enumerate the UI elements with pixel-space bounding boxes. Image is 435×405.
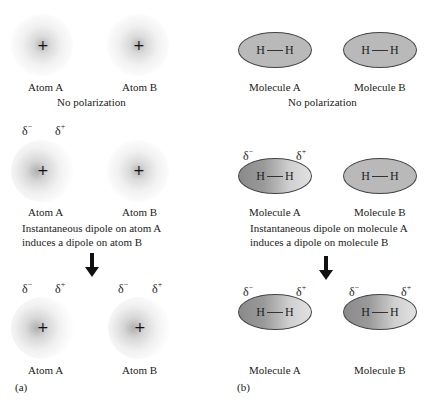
atom-a-nucleus-icon: +	[37, 38, 49, 52]
bond-line	[267, 50, 283, 51]
molecule-a-ellipse: HH	[238, 158, 312, 194]
bond-line	[267, 176, 283, 177]
atom-a-nucleus-icon: +	[37, 163, 49, 177]
h-atom-label: H	[361, 169, 370, 184]
no-polarization-caption: No polarization	[288, 96, 357, 108]
bond-line	[372, 176, 388, 177]
molecule-b-ellipse: HH	[343, 158, 417, 194]
atom-b-label: Atom B	[122, 206, 157, 218]
h-atom-label: H	[285, 305, 294, 320]
molecule-a-label: Molecule A	[249, 206, 301, 218]
molecule-a-ellipse: HH	[238, 32, 312, 68]
delta-minus-label: δ−	[22, 123, 32, 139]
bond-line	[267, 312, 283, 313]
molecule-b-ellipse: HH	[343, 32, 417, 68]
h-atom-label: H	[256, 43, 265, 58]
atom-b-nucleus-icon: +	[134, 320, 146, 334]
delta-minus-label: δ−	[118, 281, 128, 297]
h-atom-label: H	[361, 43, 370, 58]
dipole-caption-line2: induces a dipole on molecule B	[250, 235, 388, 249]
delta-minus-label: δ−	[22, 281, 32, 297]
no-polarization-caption: No polarization	[57, 96, 126, 108]
dipole-caption-line1: Instantaneous dipole on atom A	[22, 221, 161, 235]
dipole-caption-line1: Instantaneous dipole on molecule A	[250, 221, 408, 235]
atom-a-label: Atom A	[28, 81, 63, 93]
delta-plus-label: δ+	[55, 123, 65, 139]
molecule-a-ellipse: HH	[238, 294, 312, 330]
atom-b-label: Atom B	[122, 81, 157, 93]
h-atom-label: H	[361, 305, 370, 320]
molecule-b-label: Molecule B	[354, 81, 406, 93]
panel-b-label: (b)	[237, 381, 250, 393]
molecule-a-label: Molecule A	[249, 81, 301, 93]
h-atom-label: H	[256, 305, 265, 320]
molecule-a-label: Molecule A	[249, 364, 301, 376]
h-atom-label: H	[390, 305, 399, 320]
molecule-b-label: Molecule B	[354, 206, 406, 218]
atom-b-nucleus-icon: +	[133, 163, 145, 177]
h-atom-label: H	[285, 43, 294, 58]
molecule-b-label: Molecule B	[354, 364, 406, 376]
molecule-b-ellipse: HH	[343, 294, 417, 330]
h-atom-label: H	[256, 169, 265, 184]
atom-a-nucleus-icon: +	[37, 320, 49, 334]
atom-b-label: Atom B	[122, 364, 157, 376]
atom-a-label: Atom A	[28, 206, 63, 218]
atom-a-label: Atom A	[28, 364, 63, 376]
h-atom-label: H	[390, 43, 399, 58]
delta-plus-label: δ+	[55, 281, 65, 297]
delta-plus-label: δ+	[152, 281, 162, 297]
panel-a-label: (a)	[15, 381, 27, 393]
atom-b-nucleus-icon: +	[133, 38, 145, 52]
h-atom-label: H	[390, 169, 399, 184]
bond-line	[372, 312, 388, 313]
bond-line	[372, 50, 388, 51]
dipole-caption-line2: induces a dipole on atom B	[22, 235, 142, 249]
h-atom-label: H	[285, 169, 294, 184]
